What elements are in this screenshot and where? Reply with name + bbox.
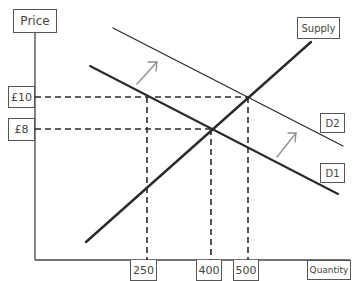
- diagram-canvas: [0, 0, 355, 281]
- d1-label: D1: [320, 163, 345, 183]
- price-tick-8: £8: [8, 118, 35, 141]
- y-axis-label: Price: [13, 9, 57, 33]
- demand-curve-d1: [90, 66, 338, 194]
- quantity-tick-400: 400: [196, 260, 222, 281]
- shift-arrow-icon: [137, 62, 157, 84]
- quantity-tick-500: 500: [233, 260, 259, 281]
- quantity-tick-250: 250: [130, 260, 157, 281]
- price-tick-10: £10: [8, 86, 35, 108]
- x-axis-label: Quantity: [307, 260, 351, 280]
- guide-lines: [35, 97, 248, 260]
- shift-arrow-icon: [277, 133, 296, 157]
- supply-label: Supply: [297, 17, 340, 39]
- d2-label: D2: [320, 113, 345, 133]
